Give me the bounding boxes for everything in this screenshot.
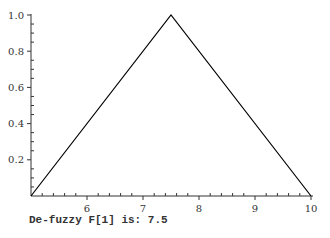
output-value: 7.5 <box>148 214 168 226</box>
membership-line <box>31 15 311 196</box>
y-tick-label: 0.8 <box>8 46 24 57</box>
y-tick-label: 0.6 <box>8 82 24 93</box>
x-tick-label: 8 <box>196 203 202 214</box>
y-tick-label: 0.4 <box>8 118 24 129</box>
x-tick-label: 9 <box>252 203 258 214</box>
output-label: De-fuzzy F[1] is: <box>29 214 141 226</box>
y-tick-label: 0.2 <box>8 154 24 165</box>
membership-chart: 0.20.40.60.81.0 678910 <box>0 0 330 238</box>
x-tick-label: 10 <box>305 203 318 214</box>
x-tick-label: 7 <box>140 203 146 214</box>
defuzzy-output: De-fuzzy F[1] is: 7.5 <box>29 214 168 226</box>
y-tick-label: 1.0 <box>8 10 24 21</box>
x-tick-label: 6 <box>84 203 90 214</box>
